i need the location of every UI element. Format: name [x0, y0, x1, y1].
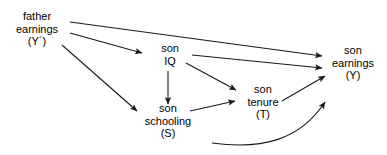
- son-iq-node: son IQ: [161, 42, 179, 67]
- edge-son-iq-to-son-earnings: [192, 55, 322, 68]
- son-tenure-line-1: son: [247, 83, 278, 96]
- edge-son-tenure-to-son-earnings: [282, 76, 325, 101]
- son-iq-line-2: IQ: [161, 54, 179, 67]
- son-earnings-symbol: (Y): [332, 69, 374, 82]
- father-earnings-line-1: father: [16, 10, 58, 23]
- son-iq-line-1: son: [161, 42, 179, 55]
- father-earnings-symbol: (Y´): [16, 35, 58, 48]
- edge-son-iq-to-son-tenure: [186, 63, 236, 90]
- edge-father-earnings-to-son-schooling: [62, 45, 137, 111]
- father-earnings-line-2: earnings: [16, 23, 58, 36]
- edge-father-earnings-to-son-earnings: [70, 22, 322, 56]
- father-earnings-node: father earnings (Y´): [16, 10, 58, 48]
- son-earnings-line-1: son: [332, 44, 374, 57]
- son-schooling-line-1: son: [145, 102, 191, 115]
- son-earnings-node: son earnings (Y): [332, 44, 374, 82]
- son-tenure-node: son tenure (T): [247, 83, 278, 121]
- son-tenure-symbol: (T): [247, 108, 278, 121]
- son-schooling-symbol: (S): [145, 127, 191, 140]
- son-schooling-line-2: schooling: [145, 115, 191, 128]
- path-diagram: father earnings (Y´) son IQ son schoolin…: [0, 0, 387, 155]
- son-tenure-line-2: tenure: [247, 96, 278, 109]
- edge-son-schooling-to-son-tenure: [190, 101, 235, 111]
- son-schooling-node: son schooling (S): [145, 102, 191, 140]
- edge-father-earnings-to-son-iq: [70, 33, 142, 53]
- son-earnings-line-2: earnings: [332, 57, 374, 70]
